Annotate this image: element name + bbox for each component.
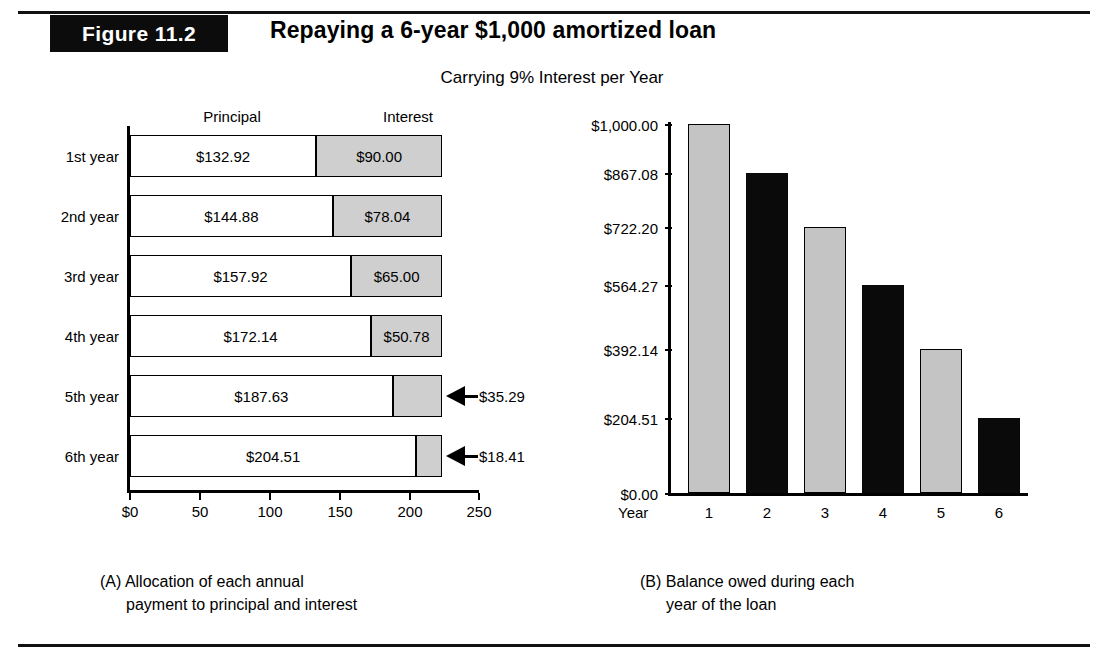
segment-principal-year-2: $144.88: [130, 195, 333, 237]
callout-year-5: $35.29: [446, 375, 525, 417]
top-divider: [18, 11, 1090, 14]
callout-label-year-5: $35.29: [479, 388, 525, 405]
row-label-year-2: 2nd year: [61, 195, 130, 237]
segment-principal-year-1: $132.92: [130, 135, 316, 177]
y-tick-label-0: $0.00: [560, 486, 658, 503]
x-tick-label-250: 250: [466, 503, 491, 520]
x-tick-200: [409, 493, 411, 500]
y-tick-564: [665, 285, 672, 287]
figure-subtitle: Carrying 9% Interest per Year: [0, 68, 1104, 88]
caption-panel-a: (A) Allocation of each annual payment to…: [100, 570, 480, 616]
x-tick-label-200: 200: [397, 503, 422, 520]
figure-number-badge: Figure 11.2: [50, 15, 228, 52]
x-tick-150: [339, 493, 341, 500]
x-tick-label-50: 50: [192, 503, 209, 520]
left-arrow-icon: [446, 446, 478, 466]
column-bar-year-6: [978, 418, 1020, 493]
bar-row-year-2: 2nd year $144.88 $78.04: [130, 195, 480, 237]
column-header-interest: Interest: [383, 108, 433, 125]
row-label-year-6: 6th year: [65, 435, 130, 477]
callout-label-year-6: $18.41: [479, 448, 525, 465]
callout-year-6: $18.41: [446, 435, 525, 477]
x-tick-label-0: $0: [122, 503, 139, 520]
x-tick-100: [269, 493, 271, 500]
x-tick-50: [199, 493, 201, 500]
x-tick-label-year-1: 1: [705, 504, 713, 521]
figure-title: Repaying a 6-year $1,000 amortized loan: [270, 17, 716, 44]
x-tick-label-100: 100: [257, 503, 282, 520]
segment-interest-year-4: $50.78: [371, 315, 442, 357]
segment-principal-year-6: $204.51: [130, 435, 416, 477]
x-tick-label-year-5: 5: [937, 504, 945, 521]
segment-principal-year-4: $172.14: [130, 315, 371, 357]
caption-b-line-1: (B) Balance owed during each: [640, 570, 1020, 593]
y-tick-392: [665, 349, 672, 351]
y-tick-1000: [665, 124, 672, 126]
row-label-year-3: 3rd year: [64, 255, 130, 297]
bottom-divider: [18, 644, 1090, 647]
y-tick-label-564: $564.27: [560, 278, 658, 295]
row-label-year-1: 1st year: [66, 135, 130, 177]
x-tick-label-year-2: 2: [763, 504, 771, 521]
row-label-year-5: 5th year: [65, 375, 130, 417]
caption-a-line-1: (A) Allocation of each annual: [100, 570, 480, 593]
x-tick-label-year-3: 3: [821, 504, 829, 521]
segment-principal-year-5: $187.63: [130, 375, 393, 417]
x-tick-label-150: 150: [327, 503, 352, 520]
bar-row-year-4: 4th year $172.14 $50.78: [130, 315, 480, 357]
caption-b-line-2: year of the loan: [640, 593, 1020, 616]
segment-principal-year-3: $157.92: [130, 255, 351, 297]
column-bar-year-5: [920, 349, 962, 493]
x-tick-250: [478, 493, 480, 500]
caption-a-line-2: payment to principal and interest: [100, 593, 480, 616]
x-tick-label-year-6: 6: [995, 504, 1003, 521]
segment-interest-year-2: $78.04: [333, 195, 442, 237]
y-tick-label-867: $867.08: [560, 166, 658, 183]
column-bar-year-2: [746, 173, 788, 493]
x-axis-line: [668, 493, 1028, 496]
left-arrow-icon: [446, 386, 478, 406]
panel-a-stacked-bar-chart: Principal Interest 1st year $132.92 $90.…: [0, 100, 560, 540]
y-tick-722: [665, 227, 672, 229]
caption-panel-b: (B) Balance owed during each year of the…: [640, 570, 1020, 616]
column-bar-year-3: [804, 227, 846, 493]
y-tick-204: [665, 418, 672, 420]
y-tick-label-1000: $1,000.00: [560, 117, 658, 134]
x-tick-label-year-4: 4: [879, 504, 887, 521]
bar-row-year-6: 6th year $204.51 $18.41 $18.41: [130, 435, 480, 477]
column-header-principal: Principal: [203, 108, 261, 125]
y-tick-867: [665, 173, 672, 175]
x-tick-0: [129, 493, 131, 500]
figure-container: Figure 11.2 Repaying a 6-year $1,000 amo…: [0, 0, 1104, 671]
y-tick-0: [665, 493, 672, 495]
y-tick-label-204: $204.51: [560, 411, 658, 428]
segment-interest-year-1: $90.00: [316, 135, 442, 177]
x-axis-line: [127, 490, 479, 493]
x-axis-label-year: Year: [618, 504, 648, 521]
y-tick-label-722: $722.20: [560, 220, 658, 237]
segment-interest-year-5: $35.29: [393, 375, 442, 417]
panel-b-column-chart: $1,000.00 $867.08 $722.20 $564.27 $392.1…: [560, 100, 1104, 540]
y-tick-label-392: $392.14: [560, 342, 658, 359]
row-label-year-4: 4th year: [65, 315, 130, 357]
bar-row-year-3: 3rd year $157.92 $65.00: [130, 255, 480, 297]
column-bar-year-1: [688, 124, 730, 493]
y-axis-line: [668, 122, 671, 496]
segment-interest-year-3: $65.00: [351, 255, 442, 297]
column-bar-year-4: [862, 285, 904, 493]
bar-row-year-1: 1st year $132.92 $90.00: [130, 135, 480, 177]
bar-row-year-5: 5th year $187.63 $35.29 $35.29: [130, 375, 480, 417]
segment-interest-year-6: $18.41: [416, 435, 442, 477]
